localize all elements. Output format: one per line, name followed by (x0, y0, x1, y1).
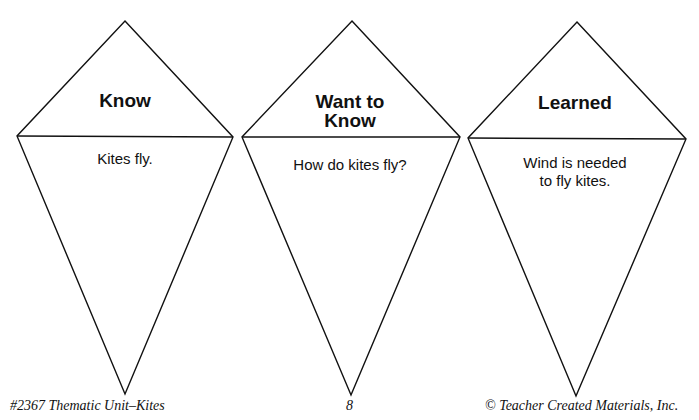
kite-want-to-know (242, 21, 460, 395)
kite-learned-body-line1: Wind is needed (500, 154, 650, 172)
kite-learned-title: Learned (515, 92, 635, 113)
footer-unit-title: #2367 Thematic Unit–Kites (10, 398, 165, 414)
kite-want-to-know-title-line1: Want to (290, 91, 410, 112)
kite-want-to-know-title-line2: Know (290, 110, 410, 131)
footer-page-number: 8 (346, 398, 353, 414)
kite-want-to-know-body: How do kites fly? (275, 156, 425, 174)
kite-know (17, 21, 233, 394)
footer-copyright: © Teacher Created Materials, Inc. (485, 398, 678, 414)
kite-know-title: Know (65, 90, 185, 111)
kites-diagram (0, 0, 699, 420)
kite-learned-body-line2: to fly kites. (500, 172, 650, 190)
kite-learned (468, 22, 686, 396)
kite-know-body: Kites fly. (55, 150, 195, 168)
